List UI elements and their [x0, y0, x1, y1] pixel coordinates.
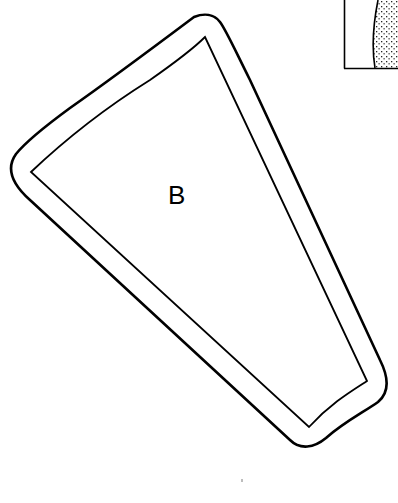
- outer-outline: [11, 15, 386, 447]
- diagram-canvas: [0, 0, 398, 503]
- scan-speck: [241, 479, 243, 482]
- inset-panel: [344, 0, 398, 69]
- inset-stipple-region: [373, 0, 398, 68]
- inner-outline: [31, 37, 367, 427]
- shape-label-b: B: [168, 182, 185, 208]
